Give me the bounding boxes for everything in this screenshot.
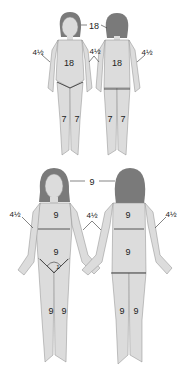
adult-leg-back-right-label: 9 bbox=[133, 306, 138, 316]
adult-chest-label: 9 bbox=[53, 210, 58, 220]
adult-arm-back-label: 4½ bbox=[165, 210, 176, 219]
child-arm-front-label: 4½ bbox=[32, 48, 43, 57]
rule-of-nines-diagram: 18 4½ 4½ 4½ 18 18 7 7 7 7 bbox=[0, 0, 189, 374]
child-head-label: 18 bbox=[89, 21, 99, 31]
adult-head-label: 9 bbox=[89, 177, 94, 187]
adult-leg-front-right-label: 9 bbox=[61, 306, 66, 316]
adult-leg-back-left-label: 9 bbox=[119, 306, 124, 316]
child-arm-middle-label: 4½ bbox=[89, 47, 100, 56]
adult-leg-front-left-label: 9 bbox=[48, 306, 53, 316]
child-back-figure bbox=[96, 13, 140, 155]
child-leg-front-left-label: 7 bbox=[61, 114, 66, 124]
adult-back-figure bbox=[82, 168, 172, 364]
adult-arm-middle-label: 4½ bbox=[86, 211, 97, 220]
adult-arm-front-label: 4½ bbox=[9, 210, 20, 219]
child-leg-back-right-label: 7 bbox=[120, 114, 125, 124]
child-leg-front-right-label: 7 bbox=[74, 114, 79, 124]
child-torso-front-label: 18 bbox=[64, 58, 74, 68]
child-arm-back-label: 4½ bbox=[141, 48, 152, 57]
child-torso-back-label: 18 bbox=[112, 58, 122, 68]
adult-upper-back-label: 9 bbox=[125, 210, 130, 220]
adult-lower-back-label: 9 bbox=[125, 247, 130, 257]
child-leg-back-left-label: 7 bbox=[107, 114, 112, 124]
adult-abdomen-label: 9 bbox=[53, 247, 58, 257]
child-front-figure bbox=[48, 12, 92, 155]
